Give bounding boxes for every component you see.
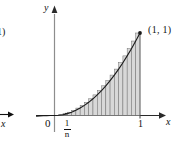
riemann-rectangle: [114, 69, 118, 115]
riemann-rectangle: [123, 56, 127, 116]
y-axis: [52, 6, 58, 133]
riemann-rectangle: [127, 49, 131, 116]
corner-point-marker: [138, 31, 142, 35]
corner-point-label: (1, 1): [148, 25, 171, 35]
riemann-rectangle: [110, 75, 114, 115]
y-axis-label: y: [44, 3, 48, 13]
left-clipped-axis-fragment: [0, 112, 14, 118]
riemann-rectangle: [136, 33, 140, 116]
x-tick-label-one: 1: [138, 119, 143, 129]
left-clipped-paren-label: 1): [0, 27, 5, 37]
fraction-denominator: n: [60, 130, 74, 139]
function-curve-left-tail: [37, 116, 55, 117]
left-clipped-axis-label: x: [1, 119, 5, 129]
x-tick-label-one-over-n: 1 n: [60, 119, 74, 140]
origin-label: 0: [45, 118, 51, 129]
x-axis-label: x: [166, 117, 170, 127]
riemann-sum-diagram: [0, 0, 180, 145]
figure-canvas: y x 0 1 (1, 1) 1 n 1) x: [0, 0, 180, 145]
riemann-rectangle: [119, 63, 123, 116]
fraction-numerator: 1: [60, 119, 74, 128]
riemann-rectangle-group: [55, 33, 141, 116]
riemann-rectangle: [131, 41, 135, 115]
one-over-n-tick-marker: [65, 113, 67, 115]
